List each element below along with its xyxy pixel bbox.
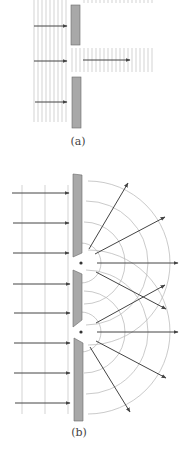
barrier-top-b [73,174,82,257]
barrier-middle-b [73,270,82,327]
slit-source-dot-1 [79,261,82,264]
barrier-lower-a [72,77,81,128]
barrier-bottom-b [74,338,83,421]
slit-source-dot-2 [79,330,82,333]
incident-rays-b [12,193,70,403]
arrow-icon [90,347,130,412]
incoming-wavefronts-b [22,185,68,414]
arrow-icon [95,217,165,254]
diffracted-rays-slit-1 [89,183,178,309]
panel-a-label: (a) [70,136,85,147]
arrow-icon [96,341,166,378]
diffraction-diagram [0,0,189,457]
panel-a [34,0,152,128]
panel-b-label: (b) [71,427,87,438]
barrier-upper-a [71,5,80,45]
panel-b [12,174,178,421]
top-wavefront-ticks-a [84,0,152,3]
